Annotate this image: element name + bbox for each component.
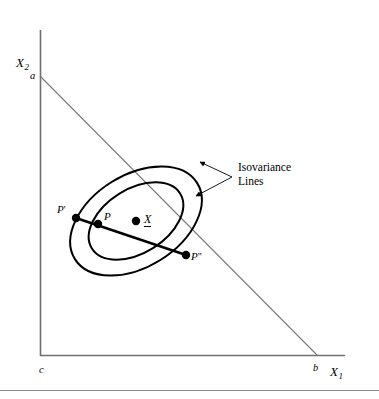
- isovariance-diagram-figure: X2 a c b X1 P' P P" X Isovariance Lines: [0, 0, 379, 399]
- callout-leader-inner: [196, 177, 232, 196]
- x-axis-label-subscript: 1: [338, 371, 343, 381]
- point-label-p-double-prime: P": [191, 251, 202, 262]
- y-intercept-label-a: a: [30, 71, 35, 82]
- point-marker-p-double-prime: [182, 251, 190, 259]
- bottom-separator-rule: [0, 390, 379, 391]
- x-axis-label: X1: [330, 365, 343, 381]
- y-axis-label-subscript: 2: [24, 62, 29, 72]
- point-label-p-prime-marks: ': [64, 204, 66, 215]
- x-intercept-label-b: b: [313, 363, 318, 374]
- point-label-p-double-prime-text: P: [191, 250, 198, 262]
- origin-label-c: c: [39, 365, 44, 376]
- mean-vector-label-text: X: [144, 213, 151, 227]
- annotation-line-2: Lines: [238, 175, 291, 189]
- isovariance-lines-annotation: Isovariance Lines: [238, 161, 291, 188]
- point-label-p-prime-text: P: [57, 203, 64, 215]
- mean-vector-label: X: [144, 210, 151, 227]
- point-label-p-prime: P': [57, 204, 66, 215]
- point-label-p: P: [104, 211, 111, 222]
- y-axis-label-text: X: [16, 55, 24, 70]
- annotation-line-1: Isovariance: [238, 161, 291, 175]
- diagram-canvas: [0, 0, 379, 399]
- callout-leader-outer: [200, 162, 232, 177]
- y-axis-label: X2: [16, 56, 29, 72]
- x-axis-label-text: X: [330, 364, 338, 379]
- point-marker-p-prime: [72, 214, 80, 222]
- budget-constraint-line: [40, 76, 318, 356]
- point-marker-mean-vector: [132, 217, 140, 225]
- point-label-p-double-prime-marks: ": [198, 251, 202, 262]
- point-marker-p: [94, 220, 102, 228]
